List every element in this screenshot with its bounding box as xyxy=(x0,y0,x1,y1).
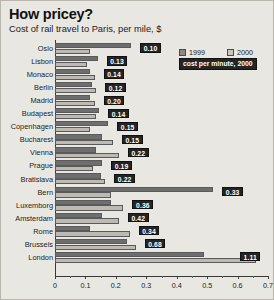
bar-pair xyxy=(55,108,268,120)
chart-subtitle: Cost of rail travel to Paris, per mile, … xyxy=(9,23,274,35)
bar-2000 xyxy=(55,49,90,54)
bar-2000 xyxy=(55,114,96,119)
bar-pair xyxy=(55,134,268,146)
chart-header: How pricey? Cost of rail travel to Paris… xyxy=(1,1,274,35)
x-tick-label: 0.3 xyxy=(141,281,151,290)
bar-row: Copenhagen0.15 xyxy=(8,120,268,133)
x-tick xyxy=(238,276,239,279)
bar-1999 xyxy=(55,239,127,244)
bar-row: Bucharest0.15 xyxy=(8,133,268,146)
category-label-madrid: Madrid xyxy=(8,94,53,107)
bar-row: Vienna0.22 xyxy=(8,146,268,159)
bar-2000 xyxy=(55,153,119,158)
bar-pair xyxy=(55,225,268,237)
x-tick xyxy=(207,276,208,279)
x-tick-minor xyxy=(131,276,132,278)
bar-row: Amsterdam0.42 xyxy=(8,212,268,225)
value-badge: 0.33 xyxy=(222,187,243,196)
bar-1999 xyxy=(55,200,111,205)
bar-2000 xyxy=(55,140,113,145)
value-badge: 0.19 xyxy=(111,161,132,170)
x-tick-label: 0.2 xyxy=(111,281,121,290)
x-tick-minor xyxy=(222,276,223,278)
bar-2000 xyxy=(55,166,93,171)
x-axis: 00.10.20.30.40.50.60.7 xyxy=(55,276,268,292)
x-tick xyxy=(146,276,147,279)
x-tick xyxy=(268,276,269,279)
bar-2000 xyxy=(55,62,87,67)
bar-1999 xyxy=(55,187,213,192)
category-label-lisbon: Lisbon xyxy=(8,55,53,68)
bar-2000 xyxy=(55,179,105,184)
category-label-prague: Prague xyxy=(8,159,53,172)
bar-row: Madrid0.20 xyxy=(8,94,268,107)
bar-2000 xyxy=(55,218,119,223)
value-badge: 0.68 xyxy=(145,239,166,248)
value-badge: 1.11 xyxy=(240,252,260,261)
value-badge: 0.14 xyxy=(104,69,125,78)
x-tick xyxy=(177,276,178,279)
value-badge: 0.10 xyxy=(140,43,161,52)
bar-1999 xyxy=(55,226,90,231)
value-badge: 0.15 xyxy=(122,135,143,144)
bar-2000 xyxy=(55,231,130,236)
x-tick xyxy=(55,276,56,279)
bar-1999 xyxy=(55,252,204,257)
category-label-luxemborg: Luxemborg xyxy=(8,199,53,212)
bar-2000 xyxy=(55,258,256,263)
category-label-rome: Rome xyxy=(8,225,53,238)
bar-1999 xyxy=(55,43,131,48)
x-tick-label: 0.1 xyxy=(80,281,90,290)
bar-1999 xyxy=(55,121,108,126)
bar-1999 xyxy=(55,213,102,218)
bar-2000 xyxy=(55,101,95,106)
bar-row: Monaco0.14 xyxy=(8,68,268,81)
bar-row: Lisbon0.13 xyxy=(8,55,268,68)
bar-row: Brussels0.68 xyxy=(8,238,268,251)
bar-row: Rome0.34 xyxy=(8,225,268,238)
bar-2000 xyxy=(55,205,123,210)
value-badge: 0.15 xyxy=(117,122,138,131)
bar-pair xyxy=(55,55,268,67)
bar-1999 xyxy=(55,160,102,165)
value-badge: 0.14 xyxy=(108,109,129,118)
bar-pair xyxy=(55,95,268,107)
x-tick-minor xyxy=(70,276,71,278)
value-badge: 0.13 xyxy=(107,56,128,65)
category-label-oslo: Oslo xyxy=(8,42,53,55)
x-tick-minor xyxy=(101,276,102,278)
category-label-bern: Bern xyxy=(8,186,53,199)
bar-1999 xyxy=(55,173,101,178)
bar-1999 xyxy=(55,82,92,87)
page-title: How pricey? xyxy=(9,6,274,22)
bar-2000 xyxy=(55,192,111,197)
bar-row: Bratislava0.22 xyxy=(8,173,268,186)
chart-figure: How pricey? Cost of rail travel to Paris… xyxy=(0,0,274,300)
bar-2000 xyxy=(55,75,95,80)
category-label-bratislava: Bratislava xyxy=(8,173,53,186)
bar-1999 xyxy=(55,147,96,152)
bar-pair xyxy=(55,121,268,133)
category-label-monaco: Monaco xyxy=(8,68,53,81)
bar-2000 xyxy=(55,88,96,93)
x-tick-label: 0.7 xyxy=(263,281,273,290)
x-tick xyxy=(85,276,86,279)
bar-1999 xyxy=(55,56,98,61)
category-label-vienna: Vienna xyxy=(8,146,53,159)
category-label-budapest: Budapest xyxy=(8,107,53,120)
bar-pair xyxy=(55,160,268,172)
bar-pair xyxy=(55,42,268,54)
category-label-berlin: Berlin xyxy=(8,81,53,94)
value-badge: 0.34 xyxy=(139,226,160,235)
bar-2000 xyxy=(55,245,136,250)
plot-area: Oslo0.10Lisbon0.13Monaco0.14Berlin0.12Ma… xyxy=(8,40,268,292)
x-tick-label: 0.4 xyxy=(172,281,182,290)
value-badge: 0.22 xyxy=(114,174,135,183)
value-badge: 0.12 xyxy=(105,83,126,92)
value-badge: 0.42 xyxy=(128,213,149,222)
bar-pair xyxy=(55,199,268,211)
bar-1999 xyxy=(55,134,102,139)
x-tick-label: 0 xyxy=(53,281,57,290)
x-tick-label: 0.5 xyxy=(202,281,212,290)
bar-pair xyxy=(55,212,268,224)
